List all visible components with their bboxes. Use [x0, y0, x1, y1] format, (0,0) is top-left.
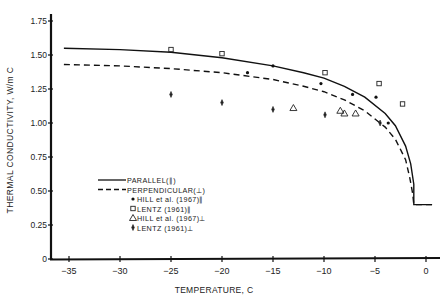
y-tick-label: 0.75 [30, 152, 47, 162]
diamond-marker [132, 225, 135, 231]
legend-label: HILL et al. (1967)∥ [137, 195, 204, 204]
x-tick-label: 0 [423, 266, 428, 276]
diamond-marker [170, 91, 173, 97]
dot-marker [131, 197, 134, 200]
triangle-marker [130, 215, 137, 221]
x-axis-label: TEMPERATURE, C [175, 285, 254, 295]
y-tick-label: 1.25 [30, 84, 47, 94]
square-marker [400, 102, 404, 106]
legend: PARALLEL(∥)PERPENDICULAR(⊥)HILL et al. (… [98, 176, 206, 233]
legend-item: HILL et al. (1967)∥ [131, 195, 203, 204]
legend-label: HILL et al. (1967)⊥ [137, 214, 206, 223]
square-marker [323, 70, 327, 74]
dot-marker [374, 96, 377, 99]
y-tick-label: 0 [42, 254, 47, 264]
y-axis-label: THERMAL CONDUCTIVITY, W/m C [5, 67, 15, 214]
triangle-marker [352, 110, 359, 116]
square-marker [169, 47, 173, 51]
y-ticks: 00.250.500.751.001.251.501.75 [30, 16, 53, 264]
legend-item: LENTZ (1961)∥ [131, 205, 192, 214]
triangle-marker [290, 105, 297, 111]
diamond-marker [379, 120, 382, 126]
x-tick-label: −20 [214, 266, 229, 276]
chart-canvas: −35−30−25−20−15−10−50 00.250.500.751.001… [0, 0, 446, 300]
x-tick-label: −30 [112, 266, 127, 276]
x-tick-label: −35 [61, 266, 76, 276]
square-marker [131, 206, 135, 210]
y-tick-label: 1.75 [30, 16, 47, 26]
x-tick-label: −15 [265, 266, 280, 276]
diamond-marker [324, 112, 327, 118]
legend-label: PARALLEL(∥) [127, 176, 176, 185]
legend-item: PARALLEL(∥) [98, 176, 176, 185]
diamond-marker [221, 100, 224, 106]
dot-marker [319, 82, 322, 85]
dot-marker [246, 71, 249, 74]
legend-item: HILL et al. (1967)⊥ [130, 214, 206, 223]
square-marker [220, 51, 224, 55]
x-tick-label: −10 [316, 266, 331, 276]
x-axis-line [50, 258, 440, 260]
dot-marker [351, 93, 354, 96]
axes: −35−30−25−20−15−10−50 00.250.500.751.001… [30, 14, 440, 276]
square-marker [377, 81, 381, 85]
y-tick-label: 0.25 [30, 220, 47, 230]
dot-marker [271, 64, 274, 67]
x-tick-label: −5 [370, 266, 380, 276]
dot-marker [387, 121, 390, 124]
legend-label: PERPENDICULAR(⊥) [127, 186, 205, 195]
y-tick-label: 0.50 [30, 186, 47, 196]
x-tick-label: −25 [163, 266, 178, 276]
y-tick-label: 1.50 [30, 50, 47, 60]
diamond-marker [272, 106, 275, 112]
legend-item: PERPENDICULAR(⊥) [98, 186, 205, 195]
legend-label: LENTZ (1961)⊥ [137, 224, 194, 233]
legend-label: LENTZ (1961)∥ [137, 205, 192, 214]
legend-item: LENTZ (1961)⊥ [132, 224, 194, 233]
y-tick-label: 1.00 [30, 118, 47, 128]
